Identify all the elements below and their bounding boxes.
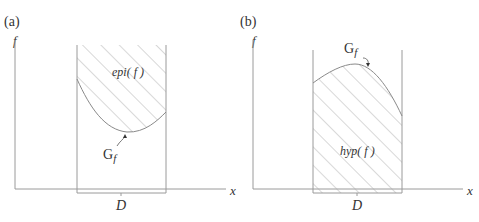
- panel-a-domain-label: D: [115, 198, 126, 213]
- panel-a-tag: (a): [4, 14, 20, 30]
- hypograph-label: hyp( f ): [340, 144, 375, 158]
- panel-a-y-axis-label: f: [13, 33, 19, 48]
- panel-b-domain-label: D: [351, 198, 362, 213]
- epigraph-region: [77, 45, 166, 132]
- panel-a: (a) f x epi( f ) Gf D: [4, 14, 236, 213]
- panel-b-graph-label: Gf: [344, 41, 359, 58]
- epigraph-label: epi( f ): [112, 65, 144, 79]
- arrowhead-icon: [366, 63, 370, 67]
- panel-a-graph-label: Gf: [103, 147, 118, 164]
- panel-b-x-axis-label: x: [466, 183, 473, 198]
- hypograph-region: [313, 64, 402, 193]
- panel-a-x-axis-label: x: [229, 183, 236, 198]
- panel-b: (b) f x Gf hyp( f ) D: [240, 14, 473, 213]
- diagram-canvas: (a) f x epi( f ) Gf D (b) f x: [0, 0, 479, 222]
- panel-b-tag: (b): [240, 14, 257, 30]
- arrowhead-icon: [123, 134, 127, 138]
